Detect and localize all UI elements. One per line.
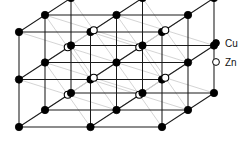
atom-zn <box>162 74 169 81</box>
bond-line <box>94 30 143 45</box>
crystal-lattice-svg: Cu Zn <box>0 0 251 141</box>
bond-line <box>91 32 140 47</box>
atom-cu <box>67 89 74 96</box>
atom-cu <box>15 76 22 83</box>
bond-line <box>94 78 143 93</box>
bond-line <box>139 95 162 127</box>
bond-line <box>139 95 188 110</box>
bond-line <box>117 15 140 47</box>
atom-cu <box>210 0 217 2</box>
bond-line <box>68 95 91 127</box>
atom-cu <box>184 106 191 113</box>
bond-line <box>19 80 68 95</box>
atom-cu <box>139 42 146 49</box>
bond-line <box>117 63 166 78</box>
atom-cu <box>158 123 165 130</box>
bond-line <box>45 63 68 95</box>
atom-cu <box>67 42 74 49</box>
bond-line <box>165 30 214 45</box>
bond-line <box>165 30 188 62</box>
atom-zn <box>90 27 97 34</box>
bond-line <box>19 32 68 47</box>
legend-label-zn: Zn <box>225 57 237 68</box>
atom-cu <box>41 106 48 113</box>
atom-cu <box>184 59 191 66</box>
atom-cu <box>210 89 217 96</box>
bond-line <box>117 15 166 30</box>
bond-line <box>91 80 140 95</box>
atom-cu <box>15 28 22 35</box>
bond-line <box>68 47 117 62</box>
bond-line <box>45 15 94 30</box>
bond-line <box>165 78 188 110</box>
bond-line <box>45 63 94 78</box>
legend: Cu Zn <box>213 38 238 68</box>
legend-label-cu: Cu <box>225 38 238 49</box>
atom-cu <box>113 11 120 18</box>
bond-line <box>94 30 117 62</box>
bond-line <box>139 47 188 62</box>
atom-cu <box>41 11 48 18</box>
bond-line <box>165 78 214 93</box>
atom-zn <box>90 74 97 81</box>
atom-cu <box>113 106 120 113</box>
legend-marker-cu-filled-circle-icon <box>213 40 220 47</box>
bond-line <box>68 95 117 110</box>
figure-root: Cu Zn <box>0 0 251 141</box>
atom-cu <box>113 59 120 66</box>
bond-line <box>117 63 140 95</box>
bond-line <box>45 15 68 47</box>
atom-cu <box>87 123 94 130</box>
atom-cu <box>184 11 191 18</box>
atom-cu <box>15 123 22 130</box>
atom-cu <box>41 59 48 66</box>
bond-line <box>94 78 117 110</box>
atom-cu <box>139 89 146 96</box>
legend-marker-zn-open-circle-icon <box>213 59 220 66</box>
atom-zn <box>162 27 169 34</box>
